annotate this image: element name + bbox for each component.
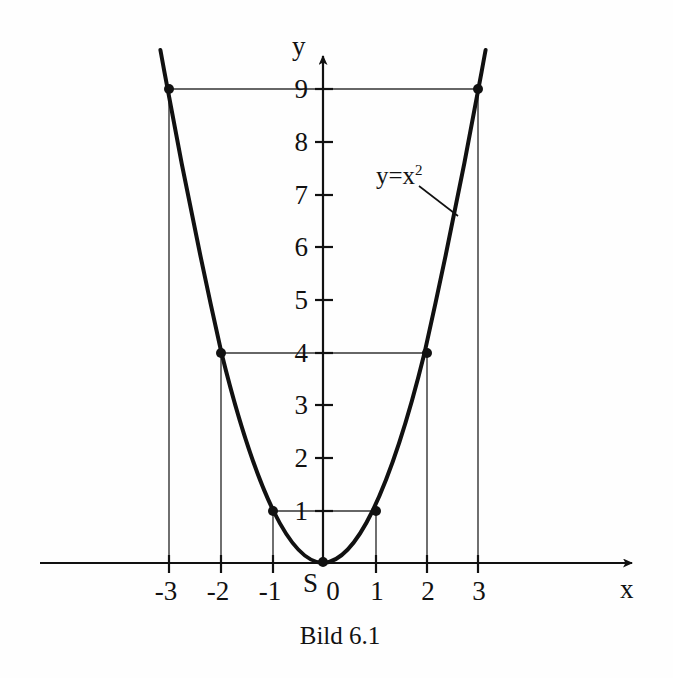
y-axis-label: y xyxy=(292,33,306,60)
curve-equation-base: y=x xyxy=(376,162,415,189)
x-tick-label-plus2: 2 xyxy=(421,578,435,605)
y-tick-label-4: 4 xyxy=(268,340,308,367)
y-tick-label-5: 5 xyxy=(268,287,308,314)
x-axis-label: x xyxy=(620,576,634,603)
x-tick-label-minus1: -1 xyxy=(259,578,282,605)
y-tick-label-7: 7 xyxy=(268,182,308,209)
x-tick-label-plus1: 1 xyxy=(370,578,384,605)
figure-caption: Bild 6.1 xyxy=(300,623,381,648)
x-tick-label-plus3: 3 xyxy=(472,578,486,605)
point-vertex-s xyxy=(318,557,328,567)
curve-equation-label: y=x2 xyxy=(376,163,423,188)
x-tick-label-minus2: -2 xyxy=(207,578,230,605)
x-tick-label-minus3: -3 xyxy=(155,578,178,605)
point-minus2-4 xyxy=(216,348,226,358)
vertex-label-s: S xyxy=(303,570,318,597)
y-tick-label-2: 2 xyxy=(268,445,308,472)
point-plus1-1 xyxy=(371,506,381,516)
point-plus3-9 xyxy=(473,84,483,94)
x-tick-label-zero: 0 xyxy=(326,578,340,605)
y-tick-label-8: 8 xyxy=(268,129,308,156)
figure-bild-6-1: y x 9 8 7 6 5 4 3 2 1 -3 -2 -1 0 1 2 3 S… xyxy=(0,0,673,678)
y-tick-label-6: 6 xyxy=(268,234,308,261)
point-minus3-9 xyxy=(164,84,174,94)
curve-equation-exponent: 2 xyxy=(415,162,423,178)
y-tick-label-1: 1 xyxy=(268,498,308,525)
y-tick-label-3: 3 xyxy=(268,392,308,419)
annotation-leader-line xyxy=(419,186,458,216)
y-tick-label-9: 9 xyxy=(268,76,308,103)
point-plus2-4 xyxy=(422,348,432,358)
